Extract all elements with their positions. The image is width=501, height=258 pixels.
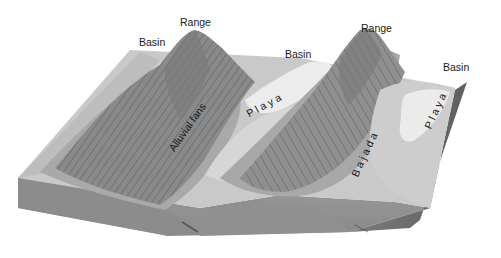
label-basin-middle: Basin: [285, 48, 311, 60]
label-range-left: Range: [180, 16, 211, 28]
label-basin-right: Basin: [443, 61, 469, 73]
label-range-right: Range: [361, 22, 392, 34]
label-basin-left: Basin: [139, 36, 165, 48]
basin-and-range-diagram: Basin Range Basin Range Basin Alluvial f…: [0, 0, 501, 258]
block-diagram-illustration: [0, 0, 501, 258]
